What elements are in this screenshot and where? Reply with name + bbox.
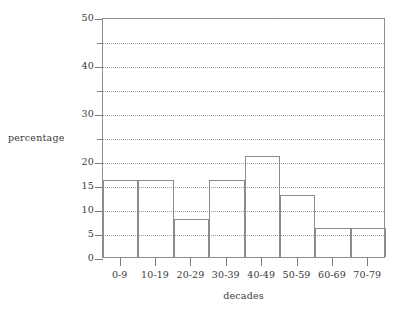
y-axis-tick-major bbox=[95, 67, 103, 68]
bar bbox=[351, 228, 386, 257]
bar bbox=[209, 180, 244, 257]
gridline bbox=[103, 139, 384, 140]
y-axis-tick-label: 40 bbox=[60, 61, 94, 71]
y-axis-tick-label: 20 bbox=[60, 157, 94, 167]
y-axis-tick-minor bbox=[97, 91, 103, 92]
y-axis-tick-major bbox=[95, 19, 103, 20]
x-axis-tick bbox=[261, 258, 262, 266]
bar bbox=[174, 219, 209, 257]
y-axis-tick-label: 15 bbox=[60, 181, 94, 191]
y-axis-tick-label: 0 bbox=[60, 253, 94, 263]
y-axis-tick-major bbox=[95, 211, 103, 212]
gridline bbox=[103, 67, 384, 68]
x-axis-tick bbox=[297, 258, 298, 266]
plot-area bbox=[102, 18, 385, 258]
y-axis-tick-label: 10 bbox=[60, 205, 94, 215]
x-axis-tick-label: 70-79 bbox=[344, 270, 390, 280]
bar bbox=[245, 156, 280, 257]
bar bbox=[315, 228, 350, 257]
x-axis-tick bbox=[120, 258, 121, 266]
y-axis-tick-label: 50 bbox=[60, 13, 94, 23]
x-axis-tick bbox=[367, 258, 368, 266]
gridline bbox=[103, 43, 384, 44]
bar bbox=[103, 180, 138, 257]
x-axis-tick-labels: 0-910-1920-2930-3940-4950-5960-6970-79 bbox=[102, 270, 385, 284]
gridline bbox=[103, 163, 384, 164]
bar bbox=[280, 195, 315, 257]
gridline bbox=[103, 115, 384, 116]
y-axis-tick-minor bbox=[97, 139, 103, 140]
y-axis-title: percentage bbox=[8, 133, 94, 143]
y-axis-tick-major bbox=[95, 187, 103, 188]
gridline bbox=[103, 91, 384, 92]
x-axis-tick bbox=[190, 258, 191, 266]
y-axis-tick-label: 30 bbox=[60, 109, 94, 119]
y-axis-tick-major bbox=[95, 115, 103, 116]
histogram-figure: 05101520304050 percentage 0-910-1920-293… bbox=[0, 0, 401, 314]
y-axis-tick-label: 5 bbox=[60, 229, 94, 239]
x-axis-ticks-group bbox=[102, 258, 385, 268]
y-axis-tick-major bbox=[95, 163, 103, 164]
x-axis-tick bbox=[332, 258, 333, 266]
y-axis-tick-minor bbox=[97, 43, 103, 44]
x-axis-tick bbox=[226, 258, 227, 266]
x-axis-tick bbox=[155, 258, 156, 266]
x-axis-title: decades bbox=[102, 291, 385, 301]
bar bbox=[138, 180, 173, 257]
y-axis-tick-major bbox=[95, 235, 103, 236]
